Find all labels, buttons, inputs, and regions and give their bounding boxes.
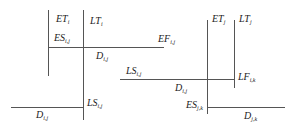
node-j-left-vertical: [207, 20, 208, 114]
time-parameter-diagram: ETi LTi ESi,j EFi,j Di,j LSi,j Di,j LSi,…: [0, 0, 299, 126]
label-ef-ij: EFi,j: [158, 34, 175, 47]
label-d-ij-link: Di,j: [175, 83, 187, 96]
node-i-left-vertical: [48, 10, 49, 76]
link-horizontal: [120, 79, 235, 80]
label-d-ij-bottom: Di,j: [36, 110, 48, 123]
label-d-jk: Dj,k: [244, 111, 257, 124]
label-et-i: ETi: [56, 14, 69, 27]
label-es-ij: ESi,j: [54, 33, 70, 46]
label-lt-i: LTi: [90, 16, 103, 29]
node-i-middle-vertical: [83, 10, 84, 120]
label-ls-ij-bottom: LSi,j: [87, 98, 102, 111]
node-i-bottom-horizontal: [11, 107, 84, 108]
node-j-right-vertical: [234, 20, 235, 88]
label-es-jk: ESj,k: [186, 100, 203, 113]
label-et-j: ETj: [212, 14, 225, 27]
node-i-top-horizontal: [48, 47, 164, 48]
label-d-ij-top: Di,j: [96, 51, 108, 64]
label-lf-ik: LFi,k: [238, 72, 256, 85]
label-ls-ij-link: LSi,j: [126, 66, 141, 79]
node-j-bottom-horizontal: [207, 107, 285, 108]
label-lt-j: LTj: [239, 14, 252, 27]
